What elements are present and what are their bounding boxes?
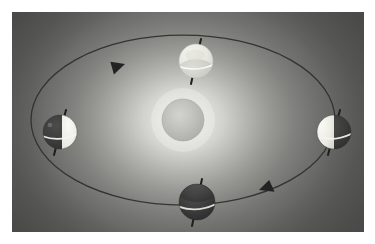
vignette-overlay (12, 12, 364, 232)
diagram-stage: Earth's orbit around the Sun showing sea… (0, 0, 375, 244)
space-scene-panel (12, 12, 364, 232)
